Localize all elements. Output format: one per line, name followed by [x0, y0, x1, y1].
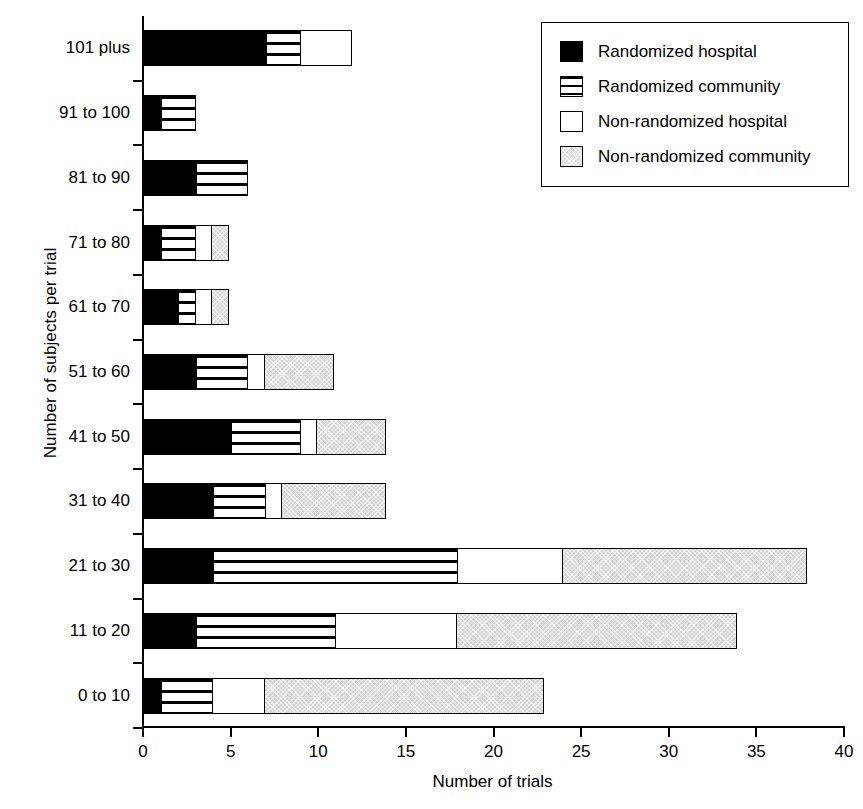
x-axis-tick	[142, 728, 144, 737]
bar-segment[interactable]	[144, 289, 179, 325]
x-axis-tick	[317, 728, 319, 737]
stacked-bar[interactable]	[144, 613, 737, 649]
stacked-bar[interactable]	[144, 95, 196, 131]
stacked-bar[interactable]	[144, 354, 334, 390]
y-axis-tick	[133, 274, 142, 276]
bar-row: 11 to 20	[142, 599, 843, 664]
bar-segment[interactable]	[161, 678, 214, 714]
x-axis-tick	[668, 728, 670, 737]
bar-segment[interactable]	[144, 160, 197, 196]
y-axis-tick-label: 0 to 10	[2, 686, 142, 706]
y-axis-tick-label: 21 to 30	[2, 556, 142, 576]
bar-segment[interactable]	[231, 419, 301, 455]
bar-segment[interactable]	[247, 354, 265, 390]
bar-segment[interactable]	[264, 354, 334, 390]
x-axis-tick-label: 10	[288, 742, 348, 762]
y-axis-tick-label: 71 to 80	[2, 233, 142, 253]
legend-label: Non-randomized hospital	[598, 112, 787, 132]
legend-item[interactable]: Randomized hospital	[560, 34, 848, 69]
y-axis-tick-label: 11 to 20	[2, 621, 142, 641]
bar-segment[interactable]	[144, 30, 267, 66]
bar-segment[interactable]	[213, 483, 266, 519]
legend-item[interactable]: Randomized community	[560, 69, 848, 104]
bar-segment[interactable]	[457, 548, 562, 584]
x-axis-tick-label: 20	[464, 742, 524, 762]
y-axis-tick-label: 41 to 50	[2, 427, 142, 447]
bar-segment[interactable]	[144, 95, 162, 131]
bar-segment[interactable]	[144, 354, 197, 390]
y-axis-tick	[133, 403, 142, 405]
x-axis-tick-label: 15	[376, 742, 436, 762]
y-axis-tick-label: 101 plus	[2, 38, 142, 58]
x-axis-tick	[230, 728, 232, 737]
bar-segment[interactable]	[211, 225, 229, 261]
x-axis-tick	[405, 728, 407, 737]
bar-segment[interactable]	[144, 613, 197, 649]
bar-row: 0 to 10	[142, 663, 843, 728]
bar-segment[interactable]	[196, 613, 336, 649]
bar-segment[interactable]	[562, 548, 807, 584]
y-axis-tick-label: 51 to 60	[2, 362, 142, 382]
y-axis-tick-label: 61 to 70	[2, 297, 142, 317]
y-axis-tick	[133, 209, 142, 211]
bar-segment[interactable]	[264, 678, 544, 714]
chart-figure: Number of subjects per trial 101 plus91 …	[0, 0, 863, 809]
x-axis-tick-label: 5	[201, 742, 261, 762]
bar-segment[interactable]	[456, 613, 736, 649]
bar-segment[interactable]	[195, 289, 213, 325]
stacked-bar[interactable]	[144, 225, 229, 261]
bar-segment[interactable]	[161, 95, 196, 131]
legend-label: Randomized hospital	[598, 42, 757, 62]
legend-swatch-icon	[560, 111, 583, 132]
bar-segment[interactable]	[316, 419, 386, 455]
bar-segment[interactable]	[212, 678, 265, 714]
bar-segment[interactable]	[196, 160, 249, 196]
stacked-bar[interactable]	[144, 483, 386, 519]
y-axis-title: Number of subjects per trial	[41, 173, 61, 533]
bar-segment[interactable]	[335, 613, 458, 649]
bar-segment[interactable]	[266, 30, 301, 66]
x-axis-tick-label: 0	[113, 742, 173, 762]
legend-item[interactable]: Non-randomized hospital	[560, 104, 848, 139]
bar-segment[interactable]	[195, 225, 213, 261]
stacked-bar[interactable]	[144, 548, 807, 584]
stacked-bar[interactable]	[144, 160, 248, 196]
legend-label: Randomized community	[598, 77, 780, 97]
bar-segment[interactable]	[196, 354, 249, 390]
x-axis-tick	[755, 728, 757, 737]
legend-item[interactable]: Non-randomized community	[560, 139, 848, 174]
bar-segment[interactable]	[144, 678, 162, 714]
bar-segment[interactable]	[300, 30, 353, 66]
stacked-bar[interactable]	[144, 30, 352, 66]
y-axis-tick-label: 31 to 40	[2, 491, 142, 511]
bar-segment[interactable]	[265, 483, 283, 519]
legend-swatch-icon	[560, 41, 583, 62]
y-axis-tick	[133, 339, 142, 341]
y-axis-tick	[133, 80, 142, 82]
y-axis-tick-label: 91 to 100	[2, 103, 142, 123]
x-axis-tick-label: 35	[726, 742, 786, 762]
y-axis-tick	[133, 468, 142, 470]
bar-segment[interactable]	[211, 289, 229, 325]
bar-segment[interactable]	[144, 483, 214, 519]
stacked-bar[interactable]	[144, 419, 386, 455]
y-axis-tick	[133, 144, 142, 146]
bar-row: 61 to 70	[142, 275, 843, 340]
y-axis-tick	[133, 727, 142, 729]
stacked-bar[interactable]	[144, 289, 229, 325]
bar-segment[interactable]	[144, 225, 162, 261]
legend-label: Non-randomized community	[598, 147, 811, 167]
bar-segment[interactable]	[213, 548, 458, 584]
bar-segment[interactable]	[178, 289, 196, 325]
legend-swatch-icon	[560, 76, 583, 97]
bar-segment[interactable]	[161, 225, 196, 261]
bar-row: 31 to 40	[142, 469, 843, 534]
bar-segment[interactable]	[281, 483, 386, 519]
y-axis-tick	[133, 533, 142, 535]
stacked-bar[interactable]	[144, 678, 544, 714]
bar-segment[interactable]	[144, 419, 232, 455]
bar-segment[interactable]	[144, 548, 214, 584]
bar-segment[interactable]	[300, 419, 318, 455]
legend: Randomized hospitalRandomized communityN…	[541, 22, 849, 187]
x-axis-tick	[843, 728, 845, 737]
